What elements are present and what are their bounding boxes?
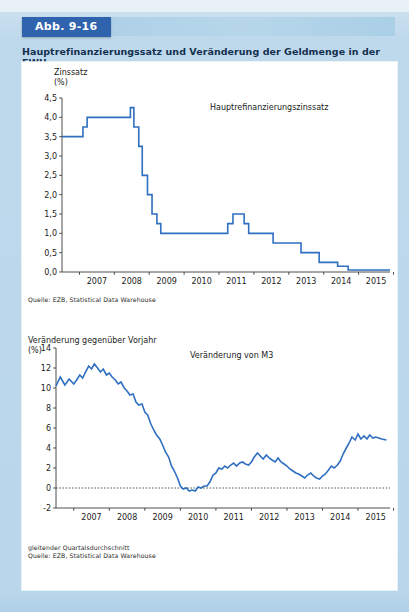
- svg-text:2008: 2008: [117, 513, 137, 522]
- svg-text:2014: 2014: [330, 513, 350, 522]
- svg-text:2015: 2015: [366, 277, 386, 286]
- chart2-plot: -202468101214200720082009201020112012201…: [22, 330, 397, 542]
- svg-text:2013: 2013: [296, 277, 316, 286]
- svg-text:0,5: 0,5: [44, 249, 57, 258]
- svg-text:3,0: 3,0: [44, 152, 57, 161]
- figure-panel: Zinssatz (%) 0,00,51,01,52,02,53,03,54,0…: [22, 62, 397, 590]
- svg-text:1,0: 1,0: [44, 229, 57, 238]
- figure-label: Abb. 9-16: [22, 17, 111, 37]
- svg-text:2007: 2007: [81, 513, 101, 522]
- svg-text:2007: 2007: [87, 277, 107, 286]
- svg-text:2011: 2011: [223, 513, 243, 522]
- chart-interest-rate: Zinssatz (%) 0,00,51,01,52,02,53,03,54,0…: [22, 62, 397, 294]
- chart-m3-growth: Veränderung gegenüber Vorjahr (%) -20246…: [22, 330, 397, 542]
- svg-text:2013: 2013: [295, 513, 315, 522]
- svg-text:2009: 2009: [157, 277, 177, 286]
- svg-text:2,0: 2,0: [44, 191, 57, 200]
- page-bottom-fade: [0, 590, 409, 612]
- svg-text:0: 0: [46, 484, 51, 493]
- svg-text:-2: -2: [43, 504, 51, 513]
- svg-text:2008: 2008: [122, 277, 142, 286]
- svg-text:2014: 2014: [331, 277, 351, 286]
- chart2-y-axis-label: Veränderung gegenüber Vorjahr (%): [28, 336, 157, 356]
- svg-text:2011: 2011: [226, 277, 246, 286]
- figure-page: Abb. 9-16 Hauptrefinanzierungssatz und V…: [0, 0, 409, 612]
- svg-text:1,5: 1,5: [44, 210, 57, 219]
- chart1-y-axis-label: Zinssatz (%): [54, 68, 87, 88]
- chart2-source: Quelle: EZB, Statistical Data Warehouse: [28, 552, 156, 561]
- svg-text:6: 6: [46, 424, 51, 433]
- svg-text:2015: 2015: [366, 513, 386, 522]
- svg-text:2,5: 2,5: [44, 171, 57, 180]
- svg-text:10: 10: [41, 384, 51, 393]
- svg-text:4,5: 4,5: [44, 94, 57, 103]
- svg-text:0,0: 0,0: [44, 268, 57, 277]
- svg-text:4: 4: [46, 444, 51, 453]
- chart1-plot: 0,00,51,01,52,02,53,03,54,04,52007200820…: [22, 62, 397, 294]
- svg-text:8: 8: [46, 404, 51, 413]
- page-top-strip: [0, 0, 409, 12]
- svg-text:2010: 2010: [188, 513, 208, 522]
- svg-text:2009: 2009: [152, 513, 172, 522]
- chart1-source: Quelle: EZB, Statistical Data Warehouse: [28, 296, 156, 305]
- svg-text:12: 12: [41, 364, 51, 373]
- svg-text:2010: 2010: [191, 277, 211, 286]
- svg-text:Veränderung von M3: Veränderung von M3: [190, 351, 273, 360]
- svg-text:4,0: 4,0: [44, 113, 57, 122]
- svg-text:Hauptrefinanzierungszinssatz: Hauptrefinanzierungszinssatz: [210, 103, 328, 112]
- svg-text:2012: 2012: [259, 513, 279, 522]
- svg-text:2012: 2012: [261, 277, 281, 286]
- running-head: [60, 0, 405, 11]
- svg-text:3,5: 3,5: [44, 133, 57, 142]
- svg-text:2: 2: [46, 464, 51, 473]
